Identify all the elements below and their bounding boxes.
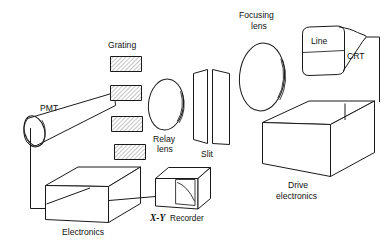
- electronics-label: Electronics: [62, 227, 104, 237]
- crt-screen-divider: [303, 51, 344, 53]
- grating-component: Grating: [108, 40, 146, 159]
- relay-lens-ellipse: [146, 77, 186, 131]
- crt-component: Line CRT: [303, 26, 367, 76]
- drive-electronics-component: Drive electronics: [263, 101, 375, 201]
- crt-neck-cap: [365, 36, 367, 39]
- electronics-component: Electronics: [46, 167, 141, 237]
- grating-label: Grating: [108, 40, 136, 50]
- relay-lens-label-line1: Relay: [153, 134, 176, 144]
- relay-lens-component: Relay lens: [146, 77, 186, 154]
- grating-plate-2: [111, 86, 142, 101]
- slit-label: Slit: [201, 149, 214, 159]
- drive-electronics-front: [263, 123, 331, 177]
- xy-recorder-front: [156, 179, 199, 210]
- drive-electronics-label-line1: Drive: [288, 180, 308, 190]
- pmt-cylinder-body: [24, 94, 116, 147]
- crt-label: CRT: [347, 51, 365, 61]
- pmt-label: PMT: [40, 103, 59, 113]
- electronics-front: [46, 186, 109, 223]
- optical-system-diagram: PMT Grating Relay lens Slit Focusing: [0, 0, 390, 244]
- diagram-canvas: PMT Grating Relay lens Slit Focusing: [0, 0, 390, 244]
- drive-electronics-label-line2: electronics: [276, 191, 317, 201]
- slit-plate-left: [194, 70, 208, 144]
- xy-recorder-label-suffix: Recorder: [170, 214, 204, 223]
- xy-recorder-label-prefix: X-Y: [149, 213, 166, 223]
- focusing-lens-component: Focusing lens: [237, 10, 288, 113]
- pmt-component: PMT: [21, 94, 116, 149]
- grating-plate-3: [112, 117, 143, 132]
- slit-component: Slit: [194, 70, 230, 160]
- grating-plate-4: [115, 145, 146, 160]
- pmt-end-cap: [21, 113, 49, 148]
- focusing-lens-label-line2: lens: [251, 21, 267, 31]
- crt-line-label: Line: [311, 36, 327, 46]
- grating-plate-1: [111, 57, 142, 72]
- relay-lens-label-line2: lens: [157, 144, 173, 154]
- xy-recorder-component: X-Y Recorder: [149, 168, 211, 224]
- crt-drive-wire: [367, 37, 380, 102]
- slit-plate-right: [213, 70, 230, 145]
- focusing-lens-ellipse: [237, 41, 288, 113]
- focusing-lens-label-line1: Focusing: [239, 10, 274, 20]
